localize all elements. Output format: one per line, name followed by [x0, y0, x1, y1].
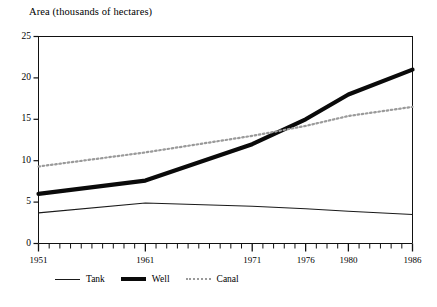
series-line-canal — [39, 107, 413, 167]
legend-label-canal: Canal — [217, 274, 239, 284]
series-line-tank — [39, 203, 413, 215]
legend-label-tank: Tank — [86, 274, 105, 284]
legend-item-well: Well — [121, 274, 170, 284]
series-line-well — [39, 70, 413, 194]
line-chart-figure: Area (thousands of hectares) 0510152025 … — [0, 0, 437, 307]
legend-item-tank: Tank — [55, 274, 105, 284]
chart-legend: Tank Well Canal — [55, 274, 255, 284]
thin-line-swatch-icon — [55, 279, 80, 280]
legend-label-well: Well — [152, 274, 170, 284]
dotted-line-swatch-icon — [186, 278, 211, 280]
plot-lines — [0, 0, 437, 307]
legend-item-canal: Canal — [186, 274, 239, 284]
thick-line-swatch-icon — [121, 277, 146, 281]
